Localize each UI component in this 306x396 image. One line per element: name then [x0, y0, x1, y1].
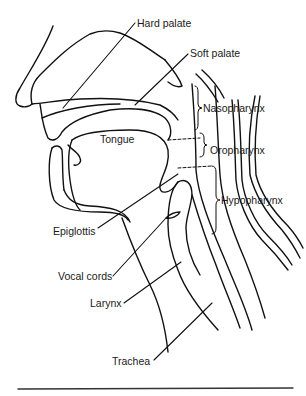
epiglottis-shape [178, 181, 200, 275]
label-tongue: Tongue [100, 134, 134, 145]
label-oropharynx: Oropharynx [210, 145, 265, 156]
label-larynx: Larynx [90, 298, 122, 309]
label-hypopharynx: Hypopharynx [221, 195, 283, 206]
oropharynx-brace [200, 133, 207, 157]
jaw-outline [49, 148, 128, 220]
label-soft-palate: Soft palate [190, 48, 240, 59]
label-trachea: Trachea [112, 356, 150, 367]
spine-line-2 [238, 100, 292, 265]
trachea-leader [154, 303, 212, 360]
spine-line-4 [255, 96, 303, 248]
label-hard-palate: Hard palate [137, 18, 191, 29]
soft-palate-leader [135, 54, 188, 105]
airway-diagram: Hard palate Soft palate Nasopharynx Tong… [0, 0, 306, 396]
vocal-cords-leader [113, 218, 166, 276]
lip-lower [52, 146, 64, 190]
label-nasopharynx: Nasopharynx [203, 103, 265, 114]
nose-outline [16, 26, 53, 107]
neck-front [122, 218, 168, 352]
hard-palate-leader [63, 23, 135, 108]
bottom-rule [18, 388, 293, 389]
label-vocal-cords: Vocal cords [58, 271, 112, 282]
nasopharynx-brace [195, 86, 202, 130]
label-epiglottis: Epiglottis [53, 226, 96, 237]
oropharynx-bottom-boundary [178, 166, 212, 168]
jaw-inner [64, 190, 130, 222]
palate-top [32, 98, 178, 120]
larynx-front [168, 182, 218, 330]
larynx-leader [124, 262, 181, 303]
hypopharynx-brace [212, 166, 220, 234]
epiglottis-leader [98, 174, 178, 228]
